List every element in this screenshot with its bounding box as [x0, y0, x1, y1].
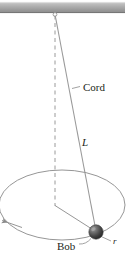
bob-leader-line [79, 239, 91, 245]
cord-line [55, 16, 95, 229]
bob-label: Bob [57, 240, 76, 252]
pendulum-bob [89, 225, 103, 239]
radius-line [55, 206, 95, 232]
length-label: L [81, 136, 88, 148]
ceiling-support [0, 2, 125, 13]
cord-label: Cord [83, 81, 106, 93]
cord-leader-line [72, 87, 80, 89]
conical-pendulum-figure: Cord L Bob r [0, 0, 129, 257]
radius-label: r [113, 236, 117, 246]
circular-path-ellipse [0, 170, 125, 240]
pendulum-diagram-canvas: Cord L Bob r [0, 0, 129, 257]
